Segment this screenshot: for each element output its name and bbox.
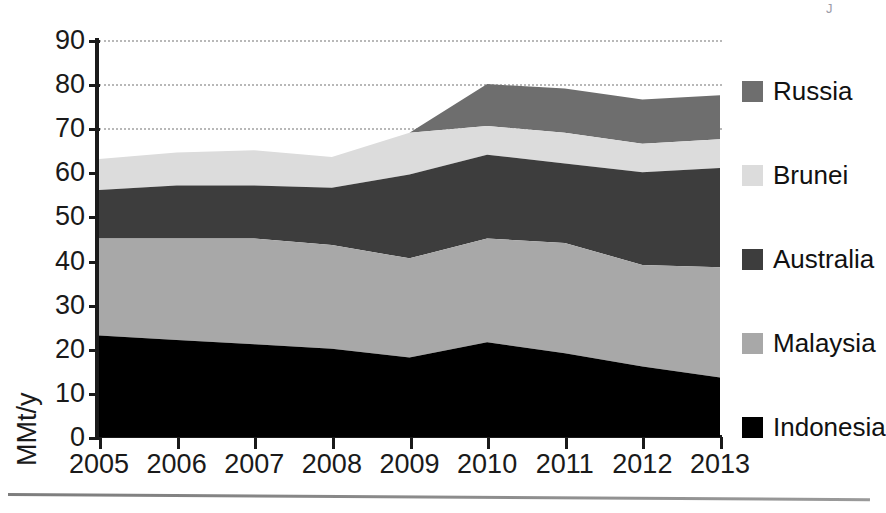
- legend-item-brunei[interactable]: Brunei: [742, 162, 848, 188]
- x-tick-2006: [177, 437, 180, 449]
- x-tick-label-2011: 2011: [536, 451, 594, 478]
- y-tick-label-0: 0: [70, 424, 85, 451]
- x-tick-label-2009: 2009: [379, 451, 439, 478]
- y-tick-label-80: 80: [55, 71, 85, 98]
- x-tick-label-2005: 2005: [69, 451, 129, 478]
- x-tick-label-2012: 2012: [612, 451, 672, 478]
- y-tick-label-60: 60: [55, 159, 85, 186]
- legend-label-indonesia: Indonesia: [773, 414, 886, 440]
- legend-swatch-icon-indonesia: [742, 417, 763, 438]
- plot-area: 0102030405060708090: [99, 40, 720, 437]
- y-tick-label-90: 90: [55, 27, 85, 54]
- legend-item-australia[interactable]: Australia: [742, 246, 874, 272]
- y-tick-label-30: 30: [55, 291, 85, 318]
- x-tick-2013: [720, 437, 723, 449]
- x-tick-group: 200520062007200820092010201120122013: [99, 437, 720, 497]
- y-tick-label-70: 70: [55, 115, 85, 142]
- legend-swatch-icon-malaysia: [742, 333, 763, 354]
- x-tick-2011: [565, 437, 568, 449]
- x-tick-2010: [487, 437, 490, 449]
- y-tick-label-20: 20: [55, 335, 85, 362]
- legend-item-indonesia[interactable]: Indonesia: [742, 414, 886, 440]
- legend-item-malaysia[interactable]: Malaysia: [742, 330, 876, 356]
- legend-swatch-icon-brunei: [742, 165, 763, 186]
- legend-label-russia: Russia: [773, 78, 852, 104]
- x-tick-2007: [254, 437, 257, 449]
- y-axis-title: MMt/y: [12, 393, 43, 467]
- legend-label-australia: Australia: [773, 246, 874, 272]
- legend-item-russia[interactable]: Russia: [742, 78, 852, 104]
- legend-swatch-icon-russia: [742, 81, 763, 102]
- x-tick-2005: [99, 437, 102, 449]
- x-tick-label-2013: 2013: [690, 451, 750, 478]
- x-tick-label-2007: 2007: [224, 451, 284, 478]
- y-tick-label-10: 10: [55, 379, 85, 406]
- y-axis-title-wrapper: MMt/y: [14, 316, 44, 326]
- x-tick-2012: [642, 437, 645, 449]
- legend-label-malaysia: Malaysia: [773, 330, 876, 356]
- x-tick-2009: [410, 437, 413, 449]
- legend-swatch-icon-australia: [742, 249, 763, 270]
- x-tick-label-2008: 2008: [302, 451, 362, 478]
- x-tick-label-2006: 2006: [147, 451, 207, 478]
- x-tick-label-2010: 2010: [457, 451, 517, 478]
- legend-label-brunei: Brunei: [773, 162, 848, 188]
- y-tick-label-40: 40: [55, 247, 85, 274]
- scan-artifact: J: [826, 2, 842, 11]
- series-layer: [99, 40, 720, 437]
- x-tick-2008: [332, 437, 335, 449]
- chart-legend: RussiaBruneiAustraliaMalaysiaIndonesia: [742, 78, 879, 438]
- y-tick-label-50: 50: [55, 203, 85, 230]
